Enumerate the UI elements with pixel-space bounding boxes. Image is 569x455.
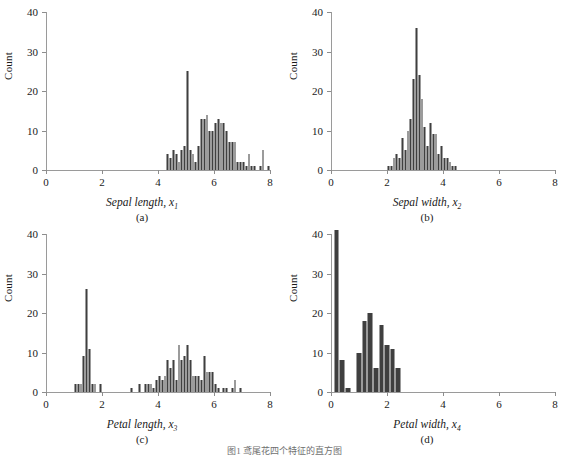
x-tick-label: 0 — [34, 177, 58, 188]
y-tick-mark — [42, 12, 46, 13]
x-axis-label-a: Sepal length, x1 — [0, 196, 284, 211]
plot-area-a: Count 01020304002468 — [0, 0, 284, 200]
x-tick-label: 4 — [146, 399, 170, 410]
histogram-bar — [130, 388, 133, 392]
x-axis-label-text-a: Sepal length, x — [106, 196, 174, 208]
x-tick-label: 6 — [487, 399, 511, 410]
x-tick-mark — [331, 170, 332, 174]
x-axis-label-d: Petal width, x4 — [285, 418, 569, 433]
x-tick-mark — [499, 170, 500, 174]
x-tick-mark — [46, 392, 47, 396]
histogram-bar — [239, 388, 242, 392]
x-tick-label: 6 — [202, 399, 226, 410]
figure-caption: 图1 鸢尾花四个特征的直方图 — [0, 444, 569, 455]
x-tick-mark — [387, 170, 388, 174]
y-tick-label: 30 — [297, 46, 323, 57]
y-tick-label: 40 — [297, 7, 323, 18]
x-tick-label: 4 — [431, 399, 455, 410]
y-tick-mark — [42, 313, 46, 314]
y-tick-mark — [327, 274, 331, 275]
x-axis-label-text-d: Petal width, x — [393, 418, 457, 430]
y-axis-line — [331, 234, 332, 392]
histogram-bar — [234, 380, 237, 392]
panel-c: Count 01020304002468 Petal length, x3 (c… — [0, 222, 284, 444]
x-axis-label-c: Petal length, x3 — [0, 418, 284, 433]
y-tick-label: 40 — [12, 7, 38, 18]
figure-histograms-iris: Count 01020304002468 Sepal length, x1 (a… — [0, 0, 569, 455]
y-axis-line — [46, 234, 47, 392]
histogram-bar — [253, 166, 256, 170]
x-tick-mark — [270, 392, 271, 396]
x-tick-mark — [158, 392, 159, 396]
y-tick-label: 20 — [297, 86, 323, 97]
x-tick-mark — [214, 170, 215, 174]
y-tick-mark — [327, 131, 331, 132]
x-tick-label: 2 — [90, 177, 114, 188]
x-axis-label-sub-a: 1 — [174, 202, 178, 211]
x-axis-label-b: Sepal width, x2 — [285, 196, 569, 211]
x-tick-mark — [270, 170, 271, 174]
y-axis-line — [46, 12, 47, 170]
histogram-bar — [217, 388, 220, 392]
y-axis-line — [331, 12, 332, 170]
y-tick-mark — [327, 52, 331, 53]
y-tick-mark — [42, 91, 46, 92]
y-tick-label: 40 — [12, 229, 38, 240]
x-tick-mark — [46, 170, 47, 174]
y-tick-label: 0 — [297, 165, 323, 176]
panel-d: Count 01020304002468 Petal width, x4 (d) — [285, 222, 569, 444]
x-axis-label-sub-c: 3 — [174, 424, 178, 433]
x-tick-label: 2 — [375, 177, 399, 188]
y-tick-label: 0 — [297, 387, 323, 398]
y-tick-label: 20 — [12, 86, 38, 97]
histogram-bar — [454, 166, 457, 170]
x-tick-label: 4 — [431, 177, 455, 188]
x-tick-label: 2 — [375, 399, 399, 410]
x-tick-mark — [555, 170, 556, 174]
y-tick-mark — [327, 313, 331, 314]
panel-a: Count 01020304002468 Sepal length, x1 (a… — [0, 0, 284, 222]
y-tick-label: 10 — [12, 125, 38, 136]
plot-area-c: Count 01020304002468 — [0, 222, 284, 422]
histogram-bar — [262, 150, 265, 170]
x-tick-label: 4 — [146, 177, 170, 188]
y-tick-mark — [42, 131, 46, 132]
x-tick-label: 0 — [319, 399, 343, 410]
y-tick-label: 30 — [297, 268, 323, 279]
histogram-bar — [395, 368, 401, 392]
histogram-bar — [345, 388, 351, 392]
y-tick-mark — [327, 12, 331, 13]
x-tick-mark — [499, 392, 500, 396]
x-axis-label-sub-d: 4 — [457, 424, 461, 433]
x-tick-label: 0 — [319, 177, 343, 188]
x-tick-mark — [443, 392, 444, 396]
x-axis-label-text-b: Sepal width, x — [393, 196, 458, 208]
x-tick-mark — [102, 170, 103, 174]
y-tick-mark — [327, 234, 331, 235]
y-tick-label: 0 — [12, 165, 38, 176]
y-tick-mark — [42, 234, 46, 235]
y-tick-label: 10 — [12, 347, 38, 358]
plot-area-b: Count 01020304002468 — [285, 0, 569, 200]
x-tick-label: 6 — [487, 177, 511, 188]
y-tick-mark — [42, 353, 46, 354]
x-axis-label-sub-b: 2 — [458, 202, 462, 211]
histogram-bar — [138, 384, 141, 392]
x-tick-label: 8 — [543, 177, 567, 188]
panel-b: Count 01020304002468 Sepal width, x2 (b) — [285, 0, 569, 222]
plot-area-d: Count 01020304002468 — [285, 222, 569, 422]
y-tick-label: 20 — [12, 308, 38, 319]
x-tick-label: 8 — [543, 399, 567, 410]
histogram-bar — [225, 388, 228, 392]
x-tick-mark — [158, 170, 159, 174]
x-tick-mark — [555, 392, 556, 396]
x-axis-label-text-c: Petal length, x — [107, 418, 174, 430]
y-tick-mark — [42, 274, 46, 275]
y-tick-label: 40 — [297, 229, 323, 240]
x-tick-label: 2 — [90, 399, 114, 410]
x-tick-label: 8 — [258, 177, 282, 188]
x-tick-mark — [102, 392, 103, 396]
x-tick-mark — [443, 170, 444, 174]
histogram-bar — [267, 166, 270, 170]
histogram-bar — [94, 384, 97, 392]
